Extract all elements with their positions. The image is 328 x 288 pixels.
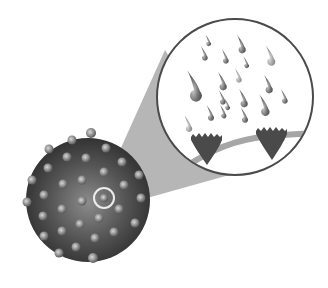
figure-canvas [0, 0, 328, 288]
magnifier-callout [157, 19, 320, 175]
cell-receptor-illustration [0, 0, 328, 288]
